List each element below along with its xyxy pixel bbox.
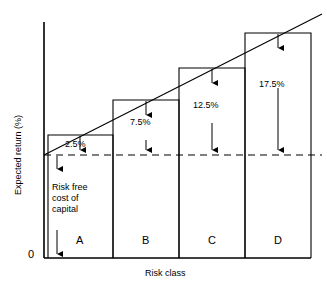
y-axis-label: Expected return (%) <box>13 100 23 210</box>
category-label-a: A <box>76 235 83 246</box>
value-label-a: 2.5% <box>65 139 86 150</box>
risk-free-annotation: Risk free cost of capital <box>52 182 88 215</box>
chart-figure: Expected return (%) 0 Risk class A B C D… <box>0 0 327 286</box>
value-label-d: 17.5% <box>259 79 285 90</box>
origin-tick-label: 0 <box>28 249 34 260</box>
category-label-c: C <box>208 235 216 246</box>
category-label-b: B <box>142 235 149 246</box>
value-label-b: 7.5% <box>130 117 151 128</box>
risk-free-annotation-line2: cost of <box>52 193 88 204</box>
risk-free-annotation-line3: capital <box>52 204 88 215</box>
risk-free-annotation-line1: Risk free <box>52 182 88 193</box>
x-axis-label: Risk class <box>145 268 186 279</box>
category-label-d: D <box>274 235 282 246</box>
bar-c <box>179 68 245 258</box>
value-label-c: 12.5% <box>193 100 219 111</box>
